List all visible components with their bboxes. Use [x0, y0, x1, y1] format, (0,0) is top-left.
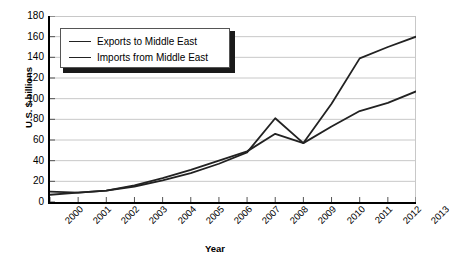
y-tick-label: 160 [8, 32, 44, 42]
y-tick-label: 80 [8, 114, 44, 124]
x-tick-label: 2004 [176, 204, 198, 226]
legend-label: Exports to Middle East [97, 36, 197, 47]
x-tick-label: 2011 [373, 204, 395, 226]
y-axis-tick-labels: 020406080100120140160180 [8, 16, 44, 202]
x-tick-label: 2001 [91, 204, 113, 226]
chart-legend: Exports to Middle EastImports from Middl… [60, 28, 230, 68]
legend-line-swatch [69, 57, 91, 58]
x-tick-label: 2000 [63, 204, 85, 226]
y-tick-label: 140 [8, 52, 44, 62]
x-tick-label: 2002 [119, 204, 141, 226]
x-tick-label: 2005 [204, 204, 226, 226]
legend-line-swatch [69, 41, 91, 42]
x-tick-label: 2006 [232, 204, 254, 226]
y-tick-label: 120 [8, 73, 44, 83]
y-tick-label: 40 [8, 156, 44, 166]
x-tick-label: 2013 [429, 204, 451, 226]
y-tick-label: 0 [8, 197, 44, 207]
series-line-2 [50, 91, 416, 194]
x-tick-label: 2010 [345, 204, 367, 226]
x-tick-label: 2008 [288, 204, 310, 226]
y-tick-label: 20 [8, 176, 44, 186]
legend-item[interactable]: Imports from Middle East [69, 50, 229, 65]
x-tick-label: 2009 [317, 204, 339, 226]
x-axis-title: Year [0, 243, 430, 254]
x-tick-label: 2003 [148, 204, 170, 226]
legend-item[interactable]: Exports to Middle East [69, 34, 229, 49]
y-tick-label: 60 [8, 135, 44, 145]
x-axis-tick-labels: 2000200120022003200420052006200720082009… [48, 204, 414, 242]
y-tick-label: 180 [8, 11, 44, 21]
legend-label: Imports from Middle East [97, 52, 208, 63]
x-tick-label: 2007 [260, 204, 282, 226]
y-tick-label: 100 [8, 94, 44, 104]
x-tick-label: 2012 [401, 204, 423, 226]
